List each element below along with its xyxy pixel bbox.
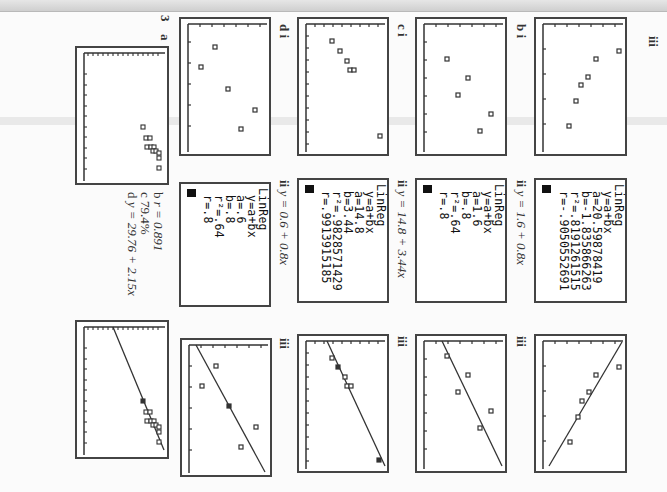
linreg-output: LinReg y=a+bx a=.6 b=.8 r²=.64 r=.8	[202, 188, 268, 238]
label-3a: a	[158, 34, 172, 41]
calculator-screen-c: LinReg y=a+bx a=14.8 b=3.44 r²=.98285714…	[297, 178, 389, 303]
calculator-cursor-icon	[423, 185, 432, 193]
page-top-edge	[0, 0, 667, 12]
scatter-plot-d-i	[179, 17, 271, 156]
question-number: 3	[158, 15, 172, 22]
answer-d-ii: ii y = 0.6 + 0.8x	[277, 180, 291, 265]
linreg-output: LinReg y=a+bx a=14.8 b=3.44 r²=.98285714…	[320, 184, 386, 291]
scatter-plot-3a	[75, 46, 169, 185]
answer-3d: d y = 29.76 + 2.15x	[125, 192, 139, 296]
label-b-i: b i	[514, 24, 528, 38]
calculator-screen-b: LinReg y=a+bx a=1.6 b=.8 r²=.64 r=.8	[415, 178, 507, 303]
calculator-screen-first: LinReg y=a+bx a=20.59878419 b=-1.8358662…	[534, 178, 627, 303]
calculator-screen-d: LinReg y=a+bx a=.6 b=.8 r²=.64 r=.8	[179, 182, 271, 307]
label-b-iii: iii	[514, 336, 528, 347]
label-d-i: d i	[277, 24, 291, 38]
scatter-plot-b-iii	[415, 334, 507, 473]
answer-3c: c 79.4%	[138, 192, 152, 235]
scatter-plot-c-iii	[297, 334, 389, 473]
calculator-cursor-icon	[305, 185, 314, 193]
answer-b-ii: ii y = 1.6 + 0.8x	[514, 180, 528, 265]
scatter-plot-b-i	[415, 17, 507, 156]
label-c-i: c i	[395, 24, 409, 37]
answer-3b: b r = 0.891	[151, 192, 165, 251]
linreg-output: LinReg y=a+bx a=20.59878419 b=-1.8358662…	[558, 184, 624, 291]
label-iii-first: iii	[646, 36, 660, 47]
calculator-cursor-icon	[187, 189, 196, 197]
label-c-iii: iii	[395, 336, 409, 347]
scatter-plot-first-i	[534, 17, 627, 156]
scatter-svg	[536, 19, 629, 158]
scatter-plot-d-iii	[180, 338, 272, 477]
label-d-iii: iii	[277, 338, 291, 349]
calculator-cursor-icon	[542, 185, 551, 193]
scatter-plot-3e	[75, 320, 169, 459]
scatter-plot-first-iii	[534, 334, 627, 473]
linreg-output: LinReg y=a+bx a=1.6 b=.8 r²=.64 r=.8	[438, 184, 504, 234]
scatter-plot-c-i	[297, 17, 389, 156]
answer-c-ii: ii y = 14.8 + 3.44x	[395, 180, 409, 278]
